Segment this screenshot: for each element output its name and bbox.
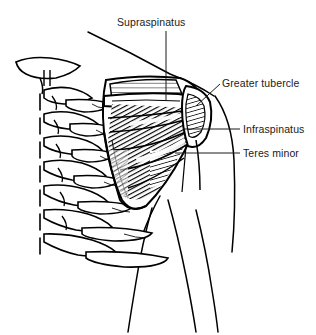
shoulder-anatomy-svg: Supraspinatus Greater tubercle Infraspin… (0, 0, 316, 335)
label-supraspinatus: Supraspinatus (117, 16, 185, 28)
anatomical-illustration: Supraspinatus Greater tubercle Infraspin… (0, 0, 316, 335)
label-teres-minor: Teres minor (243, 147, 299, 159)
label-greater-tubercle: Greater tubercle (222, 77, 300, 89)
label-infraspinatus: Infraspinatus (243, 123, 304, 135)
